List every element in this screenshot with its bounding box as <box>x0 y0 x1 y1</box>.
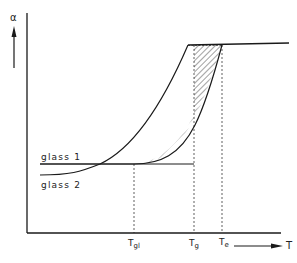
x-axis-label: T <box>285 240 293 251</box>
y-axis-label: α <box>10 12 17 23</box>
glass1-label: glass 1 <box>41 152 81 162</box>
liquid-plateau <box>188 43 289 45</box>
glass-transition-diagram: α glass 1 glass 2 Tgl Tg Te T <box>0 0 297 263</box>
glass2-label: glass 2 <box>41 180 81 190</box>
t-arrow-icon <box>271 244 283 249</box>
hatched-region-right <box>194 45 222 118</box>
tg-label: Tg <box>188 238 199 250</box>
alpha-arrow-icon <box>12 26 17 37</box>
tgl-label: Tgl <box>127 238 140 250</box>
te-label: Te <box>218 237 229 249</box>
